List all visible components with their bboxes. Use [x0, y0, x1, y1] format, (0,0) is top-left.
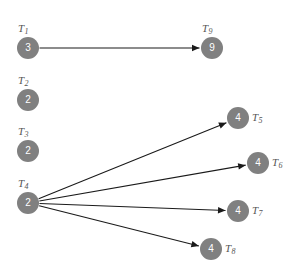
graph-edge-t4-to-t8: [39, 206, 199, 247]
graph-edge-t4-to-t6: [39, 163, 245, 201]
arrowhead-icon: [192, 45, 200, 51]
node-label-t1: T1: [18, 23, 28, 36]
graph-node-t4[interactable]: 2T4: [17, 192, 39, 214]
node-label-t3: T3: [18, 126, 28, 139]
graph-edges-layer: [0, 0, 303, 271]
graph-edge-t4-to-t5: [39, 123, 227, 199]
graph-node-t6[interactable]: 4T6: [247, 152, 269, 174]
node-label-t7: T7: [252, 205, 262, 218]
arrowhead-icon: [218, 123, 226, 129]
node-label-t4: T4: [18, 178, 28, 191]
graph-node-t8[interactable]: 4T8: [200, 238, 222, 260]
node-value-t1: 3: [17, 37, 39, 59]
arrowhead-icon: [238, 163, 246, 169]
graph-node-t1[interactable]: 3T1: [17, 37, 39, 59]
node-value-t4: 2: [17, 192, 39, 214]
node-value-t6: 4: [247, 152, 269, 174]
node-value-t3: 2: [17, 140, 39, 162]
graph-node-t9[interactable]: 9T9: [201, 37, 223, 59]
arrowhead-icon: [191, 241, 199, 247]
node-value-t9: 9: [201, 37, 223, 59]
node-label-t9: T9: [202, 23, 212, 36]
node-value-t7: 4: [227, 200, 249, 222]
node-label-t2: T2: [18, 75, 28, 88]
graph-edge-t1-to-t9: [40, 45, 200, 51]
graph-node-t3[interactable]: 2T3: [17, 140, 39, 162]
node-value-t5: 4: [227, 107, 249, 129]
node-label-t8: T8: [225, 243, 235, 256]
graph-node-t7[interactable]: 4T7: [227, 200, 249, 222]
graph-canvas: 3T12T22T32T44T54T64T74T89T9: [0, 0, 303, 271]
node-label-t5: T5: [252, 112, 262, 125]
node-value-t2: 2: [17, 89, 39, 111]
graph-node-t2[interactable]: 2T2: [17, 89, 39, 111]
graph-edge-t4-to-t7: [39, 203, 225, 213]
arrowhead-icon: [218, 207, 226, 213]
node-value-t8: 4: [200, 238, 222, 260]
graph-node-t5[interactable]: 4T5: [227, 107, 249, 129]
node-label-t6: T6: [272, 157, 282, 170]
